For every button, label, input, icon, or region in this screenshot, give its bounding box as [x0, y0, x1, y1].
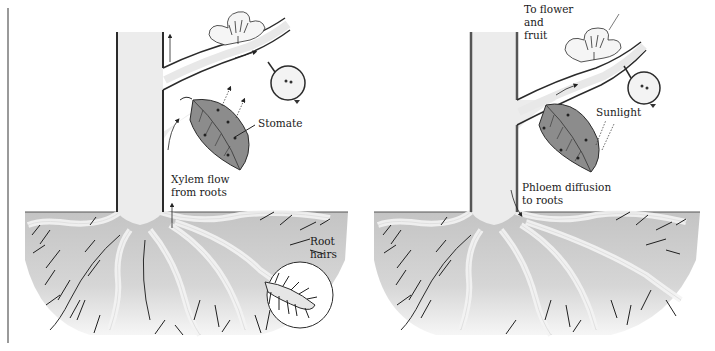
sunlight-label: Sunlight [596, 106, 641, 119]
to-flower-label-line1: To flower [524, 3, 573, 16]
fruit [624, 66, 660, 108]
phloem-diffusion-label-line1: Phloem diffusion [522, 181, 611, 194]
phloem-illustration [356, 0, 713, 351]
flower [565, 28, 621, 62]
soil [374, 212, 700, 335]
xylem-flow-label-line1: Xylem flow [171, 173, 230, 186]
xylem-flow-label-line2: from roots [171, 186, 227, 199]
phloem-panel: To flower and fruit Sunlight Phloem diff… [356, 0, 713, 351]
to-flower-label-line2: and [524, 16, 544, 29]
xylem-panel: Stomate Xylem flow from roots Root hairs [0, 0, 357, 351]
phloem-diffusion-label-line2: to roots [522, 194, 563, 207]
to-flower-label-line3: fruit [524, 29, 547, 42]
fruit [268, 62, 305, 104]
root-hairs-label-line2: hairs [310, 248, 337, 261]
leaf [180, 97, 249, 170]
root-hairs-label-line1: Root [310, 235, 335, 248]
leaf [539, 104, 599, 172]
stomate-label: Stomate [258, 117, 302, 130]
